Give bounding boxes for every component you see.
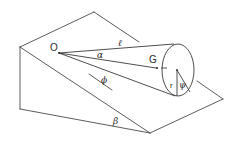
axis-to-center-of-mass: [59, 53, 156, 68]
wedge-edge-base: [20, 109, 150, 133]
center-of-mass-point: [156, 67, 158, 69]
label-radius-r: r: [170, 81, 173, 90]
cone-on-incline-diagram: O ℓ α G ϕ r ψ β: [0, 0, 233, 145]
label-apex-O: O: [50, 42, 58, 53]
label-slant-length: ℓ: [118, 38, 122, 48]
wedge-edge-slope: [20, 47, 150, 133]
apex-point: [58, 52, 60, 54]
plane-edge-right-upper: [197, 81, 223, 99]
label-incline-beta: β: [112, 116, 118, 126]
inclined-plane: [20, 12, 223, 133]
label-phi: ϕ: [101, 75, 107, 85]
label-half-angle-alpha: α: [97, 50, 103, 60]
cone-generator-lower: [59, 53, 175, 96]
cone-base-ellipse: [162, 44, 194, 96]
plane-edge-right-lower: [150, 99, 223, 133]
label-center-of-mass-G: G: [149, 54, 157, 65]
cone: [58, 44, 194, 96]
label-psi: ψ: [179, 80, 187, 90]
cone-generator-upper: [59, 44, 174, 53]
plane-edge-top-right: [94, 12, 139, 42]
